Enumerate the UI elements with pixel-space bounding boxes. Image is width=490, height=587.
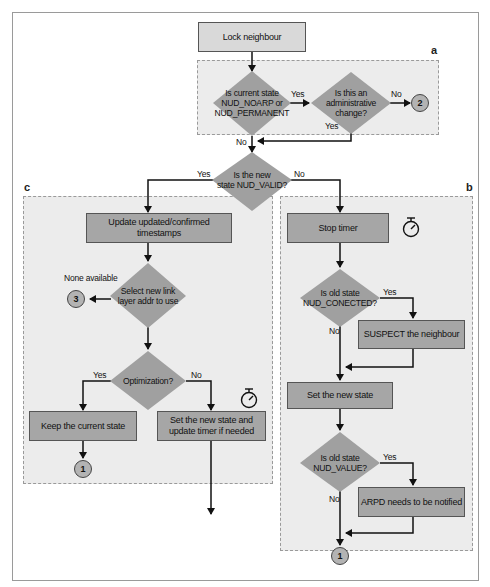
set-state-timer-line2: update timer if needed: [169, 426, 254, 437]
is-value-line1: Is old state: [320, 453, 359, 463]
select-addr-text: Select new link layer addr to use: [108, 285, 188, 307]
is-connected-line1: Is old state: [320, 288, 359, 298]
select-addr-line1: Select new link: [121, 286, 175, 296]
edge-label-valid-yes: Yes: [197, 169, 210, 179]
is-connected-text: Is old state NUD_CONECTED?: [300, 287, 380, 309]
optimization-text: Optimization?: [108, 375, 188, 387]
edge-label-valid-no: No: [294, 169, 304, 179]
edge-label-value-yes: Yes: [383, 452, 396, 462]
is-value-line2: NUD_VALUE?: [313, 463, 367, 473]
edge-label-noarp-no: No: [236, 137, 246, 147]
is-noarp-text: Is current state NUD_NOARP or NUD_PERMAN…: [212, 86, 292, 120]
is-value-text: Is old state NUD_VALUE?: [300, 452, 380, 474]
edge-label-conn-no: No: [329, 326, 339, 336]
edge-label-conn-yes: Yes: [383, 287, 396, 297]
edge-label-value-no: No: [329, 494, 339, 504]
suspect-box: SUSPECT the neighbour: [358, 320, 465, 349]
is-noarp-line2: NUD_NOARP or: [221, 98, 282, 108]
lock-neighbour-box: Lock neighbour: [198, 22, 306, 52]
edge-label-admin-no: No: [391, 89, 401, 99]
connector-1-right: 1: [331, 547, 349, 565]
is-admin-line1: Is this an: [335, 88, 367, 98]
connector-2: 2: [411, 94, 429, 112]
stopwatch-icon: [242, 389, 257, 408]
is-admin-text: Is this an administrative change?: [311, 86, 391, 120]
is-valid-text: Is the new state NUD_VALID?: [212, 169, 292, 191]
stop-timer-box: Stop timer: [287, 213, 389, 243]
is-valid-line2: state NUD_VALID?: [217, 180, 287, 190]
keep-state-box: Keep the current state: [29, 411, 137, 441]
is-admin-line2: administrative: [326, 98, 376, 108]
select-addr-line2: layer addr to use: [118, 296, 179, 306]
edge-label-none-available: None available: [64, 273, 117, 283]
edge-label-noarp-yes: Yes: [291, 89, 304, 99]
set-new-state-box: Set the new state: [287, 382, 393, 409]
update-timestamps-line1: Update updated/confirmed: [108, 217, 209, 228]
is-valid-line1: Is the new: [233, 170, 270, 180]
stopwatch-icon: [404, 218, 419, 237]
is-connected-line2: NUD_CONECTED?: [303, 298, 377, 308]
edge-label-opt-yes: Yes: [93, 370, 106, 380]
is-noarp-line3: NUD_PERMANENT: [215, 108, 290, 118]
arpd-box: ARPD needs to be notified: [358, 487, 465, 517]
set-state-timer-line1: Set the new state and: [170, 415, 253, 426]
connector-1-left: 1: [74, 460, 92, 478]
edge-label-opt-no: No: [191, 370, 201, 380]
edge-label-admin-yes: Yes: [325, 121, 338, 131]
update-timestamps-line2: timestamps: [137, 228, 181, 239]
set-state-timer-box: Set the new state and update timer if ne…: [157, 411, 266, 441]
connector-3: 3: [67, 290, 85, 308]
update-timestamps-box: Update updated/confirmed timestamps: [86, 213, 232, 243]
is-admin-line3: change?: [335, 108, 367, 118]
is-noarp-line1: Is current state: [225, 88, 279, 98]
